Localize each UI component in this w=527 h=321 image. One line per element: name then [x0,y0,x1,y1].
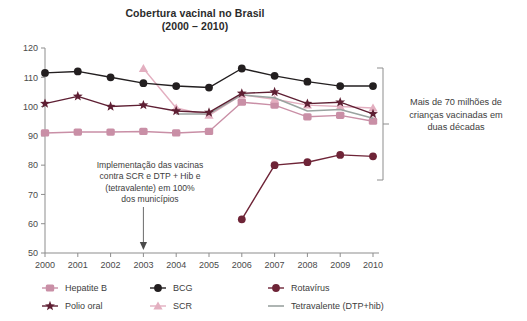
legend-label: BCG [173,283,193,293]
svg-text:2004: 2004 [166,260,186,270]
series-bcg [41,65,377,92]
svg-text:70: 70 [28,190,38,200]
right-note-line3: duas décadas [392,121,520,134]
right-note-line2: crianças vacinadas em [392,109,520,122]
legend-item-hepatite-b[interactable]: Hepatite B [42,282,150,294]
annotation-arrow [140,207,147,250]
svg-text:2001: 2001 [68,260,88,270]
svg-text:2007: 2007 [265,260,285,270]
right-bracket [377,68,389,180]
svg-text:2000: 2000 [35,260,55,270]
circle-marker-icon [268,282,284,294]
legend-item-tetravalente-dtp-hib[interactable]: Tetravalente (DTP+hib) [268,300,462,312]
chart-legend: Hepatite BBCGRotavírusPolio oralSCRTetra… [42,279,462,315]
annotation-line4: dos municípios [62,194,238,205]
legend-label: Rotavírus [291,283,330,293]
star-marker-icon [42,300,58,312]
square-marker-icon [42,282,58,294]
legend-label: SCR [173,301,192,311]
svg-text:50: 50 [28,248,38,258]
svg-text:2002: 2002 [101,260,121,270]
svg-text:2008: 2008 [297,260,317,270]
svg-text:100: 100 [23,102,38,112]
legend-label: Hepatite B [65,283,107,293]
svg-text:2003: 2003 [133,260,153,270]
right-note-text: Mais de 70 milhões de crianças vacinadas… [392,96,520,134]
chart-container: Cobertura vacinal no Brasil (2000 – 2010… [0,0,527,321]
triangle-marker-icon [150,300,166,312]
svg-text:60: 60 [28,219,38,229]
svg-text:2006: 2006 [232,260,252,270]
svg-text:2009: 2009 [330,260,350,270]
circle-marker-icon [150,282,166,294]
annotation-line1: Implementação das vacinas [62,160,238,171]
annotation-line2: contra SCR e DTP + Hib e [62,171,238,182]
legend-item-bcg[interactable]: BCG [150,282,268,294]
legend-label: Tetravalente (DTP+hib) [291,301,384,311]
legend-item-scr[interactable]: SCR [150,300,268,312]
svg-text:90: 90 [28,131,38,141]
legend-label: Polio oral [65,301,103,311]
svg-text:2005: 2005 [199,260,219,270]
y-axis: 5060708090100110120 [23,43,45,258]
annotation-line3: (tetravalente) em 100% [62,183,238,194]
x-axis: 2000200120022003200420052006200720082009… [35,253,383,270]
svg-text:2010: 2010 [363,260,383,270]
series-rotav-rus [238,151,377,223]
legend-item-rotav-rus[interactable]: Rotavírus [268,282,462,294]
svg-text:80: 80 [28,160,38,170]
line-marker-icon [268,300,284,312]
svg-text:120: 120 [23,43,38,53]
legend-item-polio-oral[interactable]: Polio oral [42,300,150,312]
svg-text:110: 110 [24,73,38,83]
annotation-text: Implementação das vacinas contra SCR e D… [62,160,238,206]
right-note-line1: Mais de 70 milhões de [392,96,520,109]
